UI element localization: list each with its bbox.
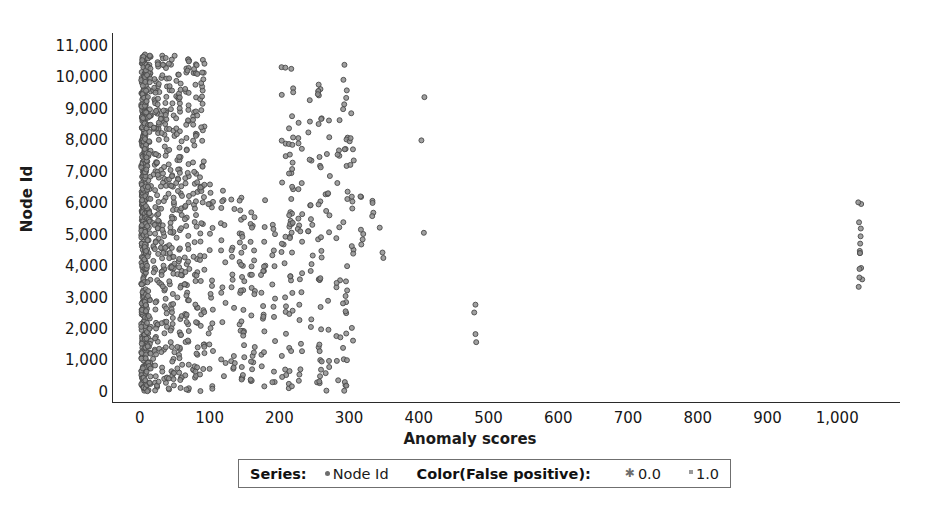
- data-point[interactable]: [210, 321, 215, 326]
- data-point[interactable]: [319, 359, 324, 364]
- data-point[interactable]: [169, 183, 174, 188]
- data-point[interactable]: [248, 239, 253, 244]
- data-point[interactable]: [145, 294, 150, 299]
- data-point[interactable]: [318, 374, 323, 379]
- data-point[interactable]: [221, 374, 226, 379]
- data-point[interactable]: [239, 319, 244, 324]
- data-point[interactable]: [200, 138, 205, 143]
- data-point[interactable]: [220, 199, 225, 204]
- data-point[interactable]: [192, 169, 197, 174]
- data-point[interactable]: [153, 90, 158, 95]
- data-point[interactable]: [202, 310, 207, 315]
- data-point[interactable]: [155, 62, 160, 67]
- data-point[interactable]: [163, 112, 168, 117]
- data-point[interactable]: [299, 290, 304, 295]
- data-point[interactable]: [308, 268, 313, 273]
- data-point[interactable]: [198, 239, 203, 244]
- data-point[interactable]: [192, 206, 197, 211]
- data-point[interactable]: [249, 225, 254, 230]
- data-point[interactable]: [195, 113, 200, 118]
- data-point[interactable]: [174, 181, 179, 186]
- data-point[interactable]: [163, 55, 168, 60]
- data-point[interactable]: [158, 184, 163, 189]
- data-point[interactable]: [358, 227, 363, 232]
- data-point[interactable]: [191, 254, 196, 259]
- data-point[interactable]: [186, 247, 191, 252]
- data-point[interactable]: [306, 130, 311, 135]
- data-point[interactable]: [140, 198, 145, 203]
- data-point[interactable]: [263, 198, 268, 203]
- data-point[interactable]: [283, 295, 288, 300]
- data-point[interactable]: [290, 220, 295, 225]
- data-point[interactable]: [207, 342, 212, 347]
- data-point[interactable]: [200, 94, 205, 99]
- data-point[interactable]: [164, 306, 169, 311]
- data-point[interactable]: [287, 213, 292, 218]
- data-point[interactable]: [186, 59, 191, 64]
- data-point[interactable]: [209, 283, 214, 288]
- data-point[interactable]: [307, 157, 312, 162]
- data-point[interactable]: [153, 336, 158, 341]
- data-point[interactable]: [177, 257, 182, 262]
- data-point[interactable]: [326, 118, 331, 123]
- data-point[interactable]: [342, 102, 347, 107]
- data-point[interactable]: [167, 76, 172, 81]
- data-point[interactable]: [290, 290, 295, 295]
- data-point[interactable]: [200, 164, 205, 169]
- data-point[interactable]: [154, 352, 159, 357]
- data-point[interactable]: [291, 135, 296, 140]
- data-point[interactable]: [324, 152, 329, 157]
- data-point[interactable]: [344, 88, 349, 93]
- data-point[interactable]: [193, 302, 198, 307]
- data-point[interactable]: [148, 366, 153, 371]
- data-point[interactable]: [162, 165, 167, 170]
- data-point[interactable]: [249, 359, 254, 364]
- data-point[interactable]: [316, 202, 321, 207]
- data-point[interactable]: [159, 240, 164, 245]
- data-point[interactable]: [194, 273, 199, 278]
- data-point[interactable]: [344, 383, 349, 388]
- data-point[interactable]: [250, 367, 255, 372]
- data-point[interactable]: [344, 358, 349, 363]
- data-point[interactable]: [194, 320, 199, 325]
- data-point[interactable]: [151, 258, 156, 263]
- data-point[interactable]: [162, 331, 167, 336]
- data-point[interactable]: [147, 80, 152, 85]
- data-point[interactable]: [324, 208, 329, 213]
- data-point[interactable]: [237, 240, 242, 245]
- data-point[interactable]: [262, 264, 267, 269]
- data-point[interactable]: [147, 326, 152, 331]
- data-point[interactable]: [155, 172, 160, 177]
- data-point[interactable]: [344, 331, 349, 336]
- data-point[interactable]: [242, 355, 247, 360]
- data-point[interactable]: [298, 367, 303, 372]
- data-point[interactable]: [174, 78, 179, 83]
- data-point[interactable]: [148, 66, 153, 71]
- data-point[interactable]: [309, 262, 314, 267]
- data-point[interactable]: [251, 350, 256, 355]
- data-point[interactable]: [168, 167, 173, 172]
- data-point[interactable]: [184, 312, 189, 317]
- data-point[interactable]: [186, 329, 191, 334]
- data-point[interactable]: [326, 191, 331, 196]
- data-point[interactable]: [230, 272, 235, 277]
- data-point[interactable]: [186, 362, 191, 367]
- data-point[interactable]: [170, 88, 175, 93]
- data-point[interactable]: [140, 58, 145, 63]
- data-point[interactable]: [166, 386, 171, 391]
- data-point[interactable]: [334, 358, 339, 363]
- data-point[interactable]: [261, 350, 266, 355]
- data-point[interactable]: [231, 365, 236, 370]
- data-point[interactable]: [183, 86, 188, 91]
- data-point[interactable]: [195, 71, 200, 76]
- data-point[interactable]: [142, 146, 147, 151]
- data-point[interactable]: [317, 379, 322, 384]
- data-point[interactable]: [146, 314, 151, 319]
- data-point[interactable]: [350, 199, 355, 204]
- data-point[interactable]: [195, 180, 200, 185]
- data-point[interactable]: [159, 273, 164, 278]
- data-point[interactable]: [197, 175, 202, 180]
- data-point[interactable]: [148, 374, 153, 379]
- data-point[interactable]: [187, 266, 192, 271]
- data-point[interactable]: [262, 384, 267, 389]
